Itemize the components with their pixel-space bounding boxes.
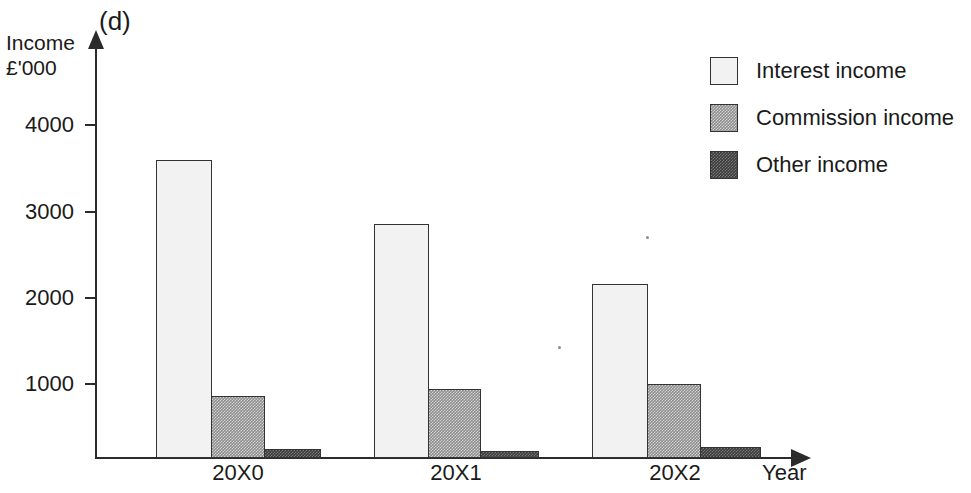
bar-interest-20X0 [156,160,212,458]
x-axis-title: Year [762,460,806,486]
legend-swatch-icon-other-income [710,151,738,179]
legend-label-commission-income: Commission income [756,105,954,131]
legend-label-other-income: Other income [756,152,888,178]
scan-speck [646,236,649,239]
bar-other-20X2 [700,447,761,458]
bar-interest-20X1 [374,224,429,458]
y-tick-mark-2000 [85,297,96,299]
y-tick-mark-1000 [85,383,96,385]
y-axis-title: Income £'000 [6,30,75,80]
bar-commission-20X2 [647,384,701,458]
y-tick-label-3000: 3000 [0,199,74,225]
y-tick-label-4000: 4000 [0,112,74,138]
y-tick-label-2000: 2000 [0,285,74,311]
y-axis-line [95,46,97,459]
y-tick-label-1000: 1000 [0,371,74,397]
bar-other-20X1 [480,451,539,458]
scan-speck [558,346,561,349]
bar-interest-20X2 [592,284,648,458]
bar-commission-20X1 [428,389,481,458]
legend-swatch-icon-commission-income [710,104,738,132]
y-tick-mark-4000 [85,124,96,126]
chart-figure: (d) Income £'000 4000 3000 2000 1000 20X… [0,0,971,493]
x-tick-label-20X0: 20X0 [178,460,298,486]
legend-label-interest-income: Interest income [756,58,906,84]
bar-commission-20X0 [211,396,265,458]
x-tick-label-20X2: 20X2 [615,460,735,486]
legend-swatch-icon-interest-income [710,57,738,85]
bar-other-20X0 [264,449,321,458]
y-axis-arrow-icon [88,30,104,49]
x-tick-label-20X1: 20X1 [396,460,516,486]
y-tick-mark-3000 [85,211,96,213]
